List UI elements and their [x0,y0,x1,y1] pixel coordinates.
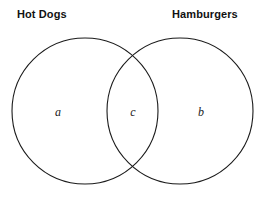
set-circle-right [107,38,253,184]
region-label-right-only: b [198,105,204,120]
region-label-left-only: a [55,105,61,120]
set-circle-left [12,38,158,184]
region-label-intersection: c [130,105,135,120]
venn-diagram: Hot Dogs Hamburgers a c b [0,0,271,197]
venn-circles-graphic [0,0,271,197]
